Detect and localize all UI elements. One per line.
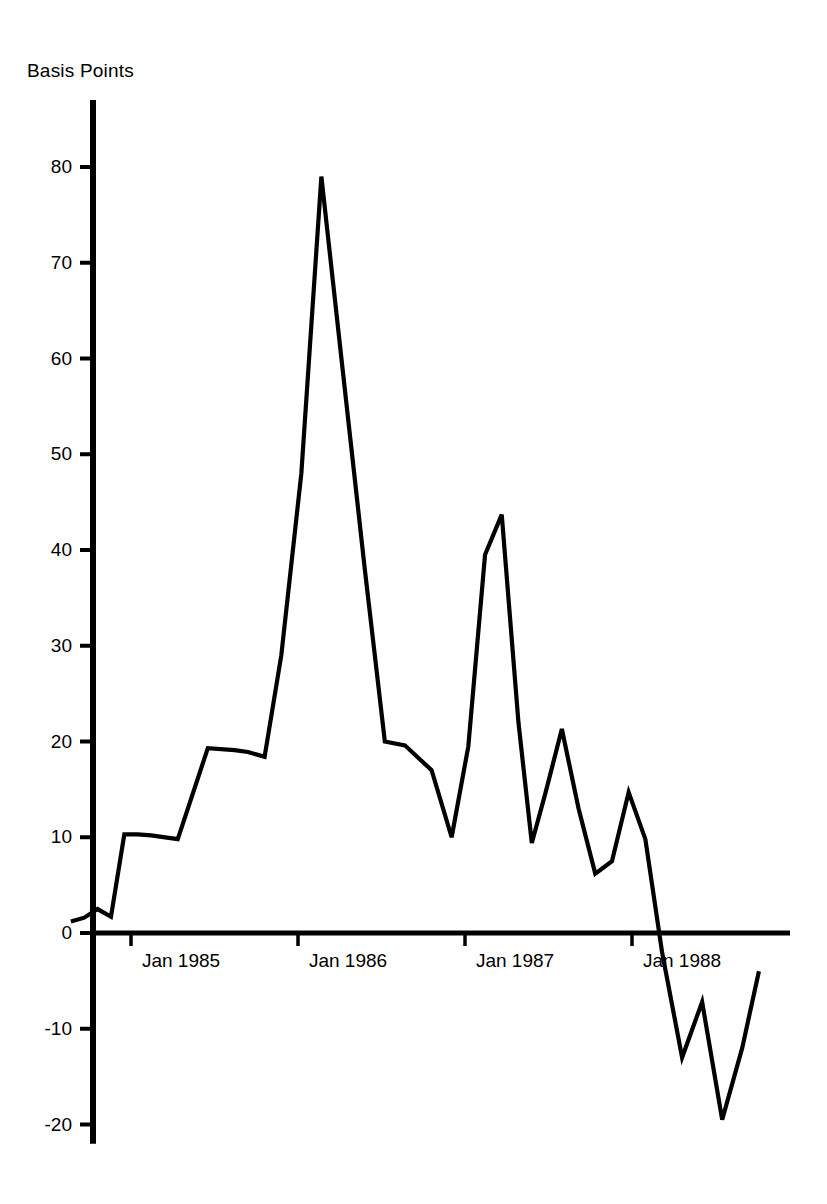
y-axis-tick-label: 60 xyxy=(0,348,72,370)
x-axis-tick-label: Jan 1985 xyxy=(142,950,220,972)
y-axis-tick-label: 0 xyxy=(0,922,72,944)
y-axis-tick-label: 80 xyxy=(0,156,72,178)
x-axis-tick-label: Jan 1986 xyxy=(309,950,387,972)
y-axis-tick-label: -10 xyxy=(0,1018,72,1040)
x-axis-tick-label: Jan 1988 xyxy=(643,950,721,972)
y-axis-tick-label: 30 xyxy=(0,635,72,657)
y-axis-tick-label: 40 xyxy=(0,539,72,561)
y-axis-tick-label: 50 xyxy=(0,443,72,465)
chart-axes xyxy=(80,100,790,1144)
y-axis-tick-label: 20 xyxy=(0,731,72,753)
y-axis-tick-label: 70 xyxy=(0,252,72,274)
chart-plot-area xyxy=(0,0,827,1204)
y-axis-tick-label: -20 xyxy=(0,1114,72,1136)
basis-points-line-chart: Basis Points 80706050403020100-10-20 Jan… xyxy=(0,0,827,1204)
x-axis-tick-label: Jan 1987 xyxy=(476,950,554,972)
y-axis-tick-label: 10 xyxy=(0,826,72,848)
data-series-line xyxy=(71,177,759,1120)
